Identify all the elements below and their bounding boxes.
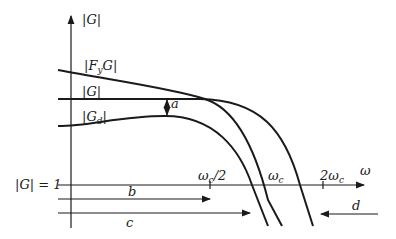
label-a: a — [171, 96, 179, 111]
label-FyG: |FyG| — [84, 58, 117, 75]
label-c: c — [126, 215, 134, 230]
tick-label-2wc: 2ωc — [319, 168, 344, 185]
unity-label: |G| = 1 — [15, 177, 62, 192]
label-Gd: |Gd| — [82, 109, 107, 126]
y-axis-label: |G| — [82, 12, 101, 27]
x-axis-label: ω — [360, 163, 371, 178]
tick-label-wc: ωc — [268, 168, 284, 185]
label-b: b — [128, 184, 136, 199]
label-d: d — [352, 198, 360, 213]
bode-diagram: |G| ω |G| = 1 |FyG| |G| |Gd| a b c d ωc/… — [0, 0, 396, 239]
label-G: |G| — [82, 84, 101, 99]
tick-label-wc-half: ωc/2 — [198, 168, 226, 185]
curve-Gd — [58, 116, 268, 226]
